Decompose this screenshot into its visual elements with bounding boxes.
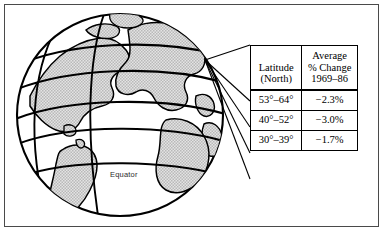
equator-label: Equator — [110, 170, 138, 179]
header-average-change: Average % Change 1969–86 — [302, 46, 358, 90]
cell-change: −1.7% — [302, 130, 358, 150]
cell-change: −2.3% — [302, 90, 358, 111]
table-header-row: Latitude (North) Average % Change 1969–8… — [251, 46, 358, 90]
header-latitude-line1: Latitude — [253, 62, 299, 74]
header-change-line3: 1969–86 — [304, 73, 355, 85]
table-row: 40°–52° −3.0% — [251, 110, 358, 130]
cell-change: −3.0% — [302, 110, 358, 130]
table-row: 53°–64° −2.3% — [251, 90, 358, 111]
header-change-line1: Average — [304, 50, 355, 62]
globe-latitude-figure: Equator Latitude (North) Average % Chang… — [0, 0, 383, 231]
header-latitude-line2: (North) — [253, 73, 299, 85]
latitude-change-table: Latitude (North) Average % Change 1969–8… — [250, 45, 358, 151]
cell-latitude: 30°–39° — [251, 130, 302, 150]
leader-line-top — [205, 45, 250, 60]
cell-latitude: 53°–64° — [251, 90, 302, 111]
header-change-line2: % Change — [304, 62, 355, 74]
header-latitude: Latitude (North) — [251, 46, 302, 90]
table-row: 30°–39° −1.7% — [251, 130, 358, 150]
cell-latitude: 40°–52° — [251, 110, 302, 130]
